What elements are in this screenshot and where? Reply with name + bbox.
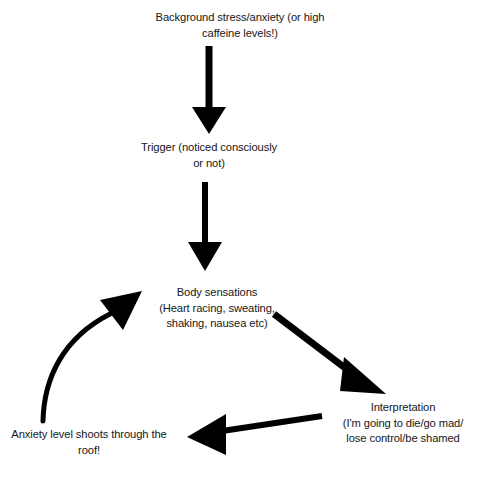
node-label-interpretation: Interpretation (I'm going to die/go mad/…: [328, 400, 478, 447]
arrow-anxiety-to-body: [43, 291, 142, 421]
arrow-trigger-to-body: [188, 182, 222, 271]
node-label-body-sensations: Body sensations (Heart racing, sweating,…: [134, 285, 300, 332]
node-label-background-stress: Background stress/anxiety (or high caffe…: [108, 10, 372, 41]
node-label-trigger: Trigger (noticed consciously or not): [112, 140, 306, 171]
arrow-interpretation-to-anxiety: [187, 414, 322, 455]
diagram-canvas: Background stress/anxiety (or high caffe…: [0, 0, 479, 479]
node-label-anxiety-level: Anxiety level shoots through the roof!: [2, 427, 176, 458]
arrow-background-to-trigger: [192, 46, 226, 134]
